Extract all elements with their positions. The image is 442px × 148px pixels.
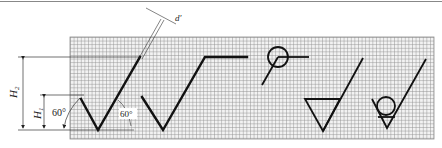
angle-left-label: 60° <box>52 107 66 118</box>
line-width-label: d′ <box>175 13 183 23</box>
figure-canvas: H2 H1 60° d′ 60° <box>0 0 442 148</box>
h1-label: H1 <box>31 108 45 120</box>
h2-label: H2 <box>7 86 21 99</box>
grid-background <box>70 37 434 139</box>
angle-inner-label: 60° <box>120 109 133 119</box>
surface-texture-symbol-figure: H2 H1 60° d′ 60° <box>0 0 442 148</box>
